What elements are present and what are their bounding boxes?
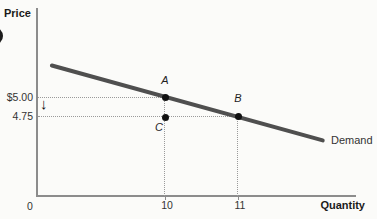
- y-tick-label-475: 4.75: [0, 110, 33, 122]
- x-tick-label-0: 0: [22, 200, 38, 212]
- guide-line-quantity-10: [164, 98, 165, 196]
- x-axis-line: [36, 195, 356, 197]
- x-tick-label-11: 11: [230, 199, 250, 211]
- point-a-label: A: [158, 74, 172, 86]
- y-axis-title: Price: [4, 7, 31, 19]
- point-a-marker: [162, 94, 169, 101]
- price-decrease-arrow-icon: ↓: [40, 96, 48, 111]
- point-c-marker: [162, 114, 169, 121]
- demand-curve-label: Demand: [331, 134, 373, 146]
- clipped-margin-bullet: [0, 27, 3, 45]
- point-b-marker: [235, 113, 242, 120]
- guide-line-price-475: [38, 116, 238, 117]
- x-tick-label-10: 10: [157, 199, 177, 211]
- guide-line-price-500: [38, 97, 165, 98]
- y-tick-label-500: $5.00: [0, 91, 33, 103]
- guide-line-quantity-11: [237, 117, 238, 196]
- point-c-label: C: [152, 121, 166, 133]
- point-b-label: B: [231, 92, 245, 104]
- x-axis-title: Quantity: [295, 199, 365, 211]
- y-axis-line: [36, 8, 38, 196]
- demand-curve: [50, 63, 326, 142]
